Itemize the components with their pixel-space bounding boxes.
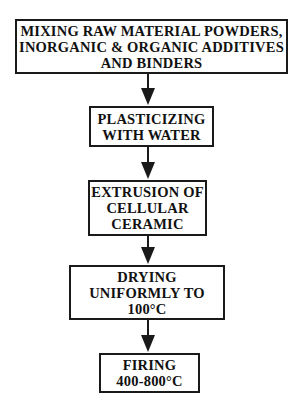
arrow-mixing-to-plasticizing <box>141 73 155 105</box>
step-mixing-box: MIXING RAW MATERIAL POWDERS, INORGANIC &… <box>15 19 288 74</box>
arrow-drying-to-firing <box>141 319 155 352</box>
step-plasticizing-line-1: PLASTICIZING <box>98 111 206 127</box>
step-firing-line-2: 400-800°C <box>116 373 182 389</box>
step-extrusion-line-1: EXTRUSION OF <box>91 184 203 200</box>
arrow-extrusion-to-drying <box>141 235 155 264</box>
step-drying-box: DRYING UNIFORMLY TO 100°C <box>69 265 225 320</box>
step-mixing-line-1: MIXING RAW MATERIAL POWDERS, <box>20 23 282 39</box>
step-firing-box: FIRING 400-800°C <box>99 353 200 393</box>
step-plasticizing-line-2: WITH WATER <box>102 127 201 143</box>
arrow-plasticizing-to-extrusion <box>141 146 155 179</box>
step-drying-line-1: DRYING <box>117 269 177 285</box>
step-drying-line-3: 100°C <box>127 301 166 317</box>
step-plasticizing-box: PLASTICIZING WITH WATER <box>89 106 214 147</box>
step-extrusion-box: EXTRUSION OF CELLULAR CERAMIC <box>88 180 207 236</box>
step-firing-line-1: FIRING <box>123 357 177 373</box>
step-mixing-line-2: INORGANIC & ORGANIC ADDITIVES <box>19 39 284 55</box>
step-mixing-line-3: AND BINDERS <box>101 55 203 71</box>
step-drying-line-2: UNIFORMLY TO <box>89 285 205 301</box>
step-extrusion-line-2: CELLULAR <box>106 200 188 216</box>
step-extrusion-line-3: CERAMIC <box>111 216 183 232</box>
